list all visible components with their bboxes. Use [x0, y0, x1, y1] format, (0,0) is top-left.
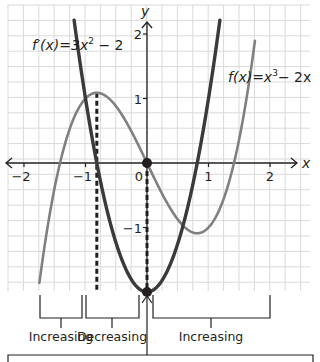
x-axis-label: x: [301, 155, 311, 171]
y-tick-label: 2: [134, 27, 142, 42]
x-tick-label: 1: [204, 169, 212, 184]
marked-point: [142, 158, 152, 168]
y-tick-label: −1: [123, 221, 142, 236]
x-tick-label: 2: [266, 169, 274, 184]
interval-label-decreasing: Decreasing: [77, 329, 147, 344]
interval-brackets: [40, 295, 270, 328]
chart: −2−112−1120 f′(x)=3x2 − 2 f(x)=x3− 2x x …: [0, 0, 320, 362]
callout-box: [8, 355, 313, 362]
interval-label-increasing-right: Increasing: [179, 329, 244, 344]
y-tick-label: 1: [134, 92, 142, 107]
origin-label: 0: [135, 169, 143, 184]
function-label: f(x)=x3− 2x: [228, 68, 311, 85]
y-axis-label: y: [140, 3, 150, 19]
interval-bracket: [153, 295, 270, 318]
x-tick-label: −1: [73, 169, 92, 184]
x-tick-label: −2: [11, 169, 30, 184]
derivative-label: f′(x)=3x2 − 2: [32, 36, 124, 53]
interval-bracket: [40, 295, 82, 318]
interval-bracket: [86, 295, 139, 318]
